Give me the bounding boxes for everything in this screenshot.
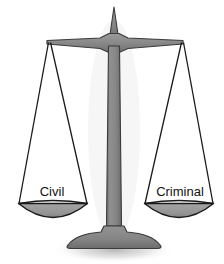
base-foot (67, 226, 161, 249)
pan-left-bowl (19, 204, 88, 218)
scales-of-justice-illustration: Civil Criminal (0, 0, 224, 264)
pan-left-string-outer (19, 43, 49, 204)
pan-right-string-inner (145, 43, 182, 204)
pan-right-string-outer (184, 43, 214, 204)
pan-right: Criminal (145, 43, 214, 218)
pan-left: Civil (19, 43, 88, 218)
pan-left-string-inner (51, 43, 88, 204)
pan-left-label: Civil (40, 184, 65, 199)
center-column (107, 46, 122, 226)
pan-right-label: Criminal (156, 184, 204, 199)
scale-drawing: Civil Criminal (0, 0, 224, 264)
pan-right-bowl (145, 204, 214, 218)
